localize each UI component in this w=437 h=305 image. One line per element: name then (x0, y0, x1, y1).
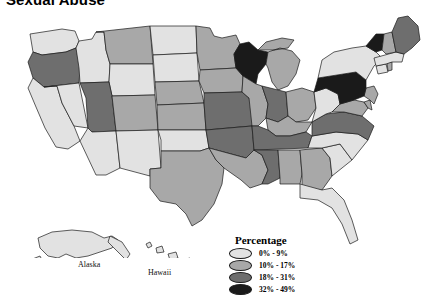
legend-item-label: 10% - 17% (259, 261, 295, 270)
legend-swatch (229, 284, 252, 295)
state-TX[interactable] (150, 148, 224, 226)
state-OK[interactable] (158, 130, 209, 151)
state-ND[interactable] (150, 26, 197, 55)
choropleth-map-figure: Sexual Abuse (0, 0, 437, 305)
legend-swatch (229, 260, 252, 271)
state-SD[interactable] (153, 53, 199, 82)
legend-swatch (229, 248, 252, 259)
us-states-map (0, 8, 437, 258)
legend-item-label: 0% - 9% (259, 249, 288, 258)
state-MN[interactable] (196, 26, 240, 70)
state-FL[interactable] (300, 184, 358, 244)
legend-item: 0% - 9% (229, 248, 295, 259)
legend-swatch (229, 272, 252, 283)
state-IA[interactable] (199, 68, 243, 93)
legend-title: Percentage (235, 234, 295, 246)
state-KS[interactable] (157, 103, 206, 130)
inset-label-alaska: Alaska (78, 260, 100, 269)
state-WY[interactable] (109, 64, 155, 96)
state-CO[interactable] (112, 95, 158, 131)
page-title: Sexual Abuse (6, 0, 105, 8)
map-canvas (0, 8, 437, 258)
state-AK[interactable] (30, 230, 118, 258)
state-HI[interactable] (146, 242, 194, 258)
state-AZ[interactable] (80, 128, 120, 175)
legend-item: 32% - 49% (229, 284, 295, 295)
state-NE[interactable] (155, 81, 204, 105)
state-ME[interactable] (392, 16, 420, 54)
legend-item: 18% - 31% (229, 272, 295, 283)
legend-item-label: 32% - 49% (259, 285, 295, 294)
legend-item-label: 18% - 31% (259, 273, 295, 282)
inset-label-hawaii: Hawaii (148, 268, 171, 277)
state-AL[interactable] (278, 150, 302, 184)
legend: Percentage 0% - 9% 10% - 17% 18% - 31% 3… (229, 234, 295, 296)
legend-item: 10% - 17% (229, 260, 295, 271)
state-OH[interactable] (286, 88, 316, 122)
